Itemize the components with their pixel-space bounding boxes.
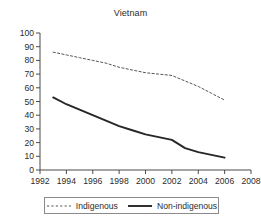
- y-tick-label: 60: [24, 83, 34, 93]
- solid-line-swatch-icon: [127, 203, 153, 209]
- y-tick-label: 30: [24, 124, 34, 134]
- y-tick-label: 10: [24, 151, 34, 161]
- legend-label-indigenous: Indigenous: [76, 201, 118, 211]
- x-axis: 199219941996199820002002200420062008: [30, 170, 260, 186]
- y-tick-label: 80: [24, 55, 34, 65]
- y-tick-label: 0: [29, 165, 34, 175]
- data-series-group: [53, 52, 224, 157]
- y-tick-marks: [36, 33, 40, 170]
- y-tick-label: 100: [20, 28, 35, 38]
- x-tick-marks: [40, 170, 251, 174]
- y-tick-label: 90: [24, 42, 34, 52]
- x-tick-labels: 199219941996199820002002200420062008: [30, 176, 260, 186]
- chart-figure: Vietnam 0102030405060708090100 199219941…: [0, 0, 261, 221]
- chart-plot-area: 0102030405060708090100 19921994199619982…: [0, 0, 261, 221]
- y-tick-label: 70: [24, 69, 34, 79]
- x-tick-label: 2008: [241, 176, 260, 186]
- x-tick-label: 2002: [162, 176, 181, 186]
- chart-legend: Indigenous Non-indigenous: [44, 197, 219, 214]
- dashed-line-swatch-icon: [46, 203, 72, 209]
- x-tick-label: 1998: [110, 176, 129, 186]
- series-line-indigenous: [53, 52, 224, 100]
- x-tick-label: 2004: [189, 176, 208, 186]
- x-tick-label: 2000: [136, 176, 155, 186]
- legend-label-non-indigenous: Non-indigenous: [157, 201, 217, 211]
- x-tick-label: 2006: [215, 176, 234, 186]
- x-tick-label: 1994: [57, 176, 76, 186]
- legend-item-indigenous[interactable]: Indigenous: [46, 201, 118, 211]
- y-tick-labels: 0102030405060708090100: [20, 28, 35, 175]
- legend-item-non-indigenous[interactable]: Non-indigenous: [127, 201, 217, 211]
- y-axis: 0102030405060708090100: [20, 28, 40, 175]
- x-tick-label: 1996: [83, 176, 102, 186]
- y-tick-label: 50: [24, 97, 34, 107]
- y-tick-label: 20: [24, 138, 34, 148]
- y-tick-label: 40: [24, 110, 34, 120]
- x-tick-label: 1992: [30, 176, 49, 186]
- series-line-non-indigenous: [53, 97, 224, 157]
